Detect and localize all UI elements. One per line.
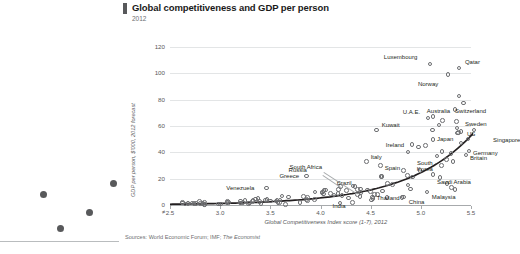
data-label-singapore: Singapore	[493, 137, 520, 144]
data-label-malaysia: Malaysia	[432, 194, 456, 201]
data-point-india	[350, 200, 355, 205]
left-panel-dot	[86, 209, 93, 216]
data-point	[304, 197, 309, 202]
left-panel-dot	[57, 225, 64, 232]
source-publication: The Economist	[223, 234, 260, 240]
scatter-plot: 0204060801001202.53.03.54.04.55.05.5≠GDP…	[119, 0, 473, 254]
data-label-sweden: Sweden	[465, 121, 487, 128]
data-point	[440, 118, 445, 123]
data-point-ireland	[410, 142, 415, 147]
left-panel-divider	[0, 241, 119, 242]
data-point	[283, 202, 288, 207]
data-point	[202, 200, 207, 205]
data-label-qatar: Qatar	[465, 59, 480, 66]
data-point-south-korea	[431, 172, 436, 177]
data-point	[336, 187, 341, 192]
data-label-venezuela: Venezuela	[226, 185, 254, 192]
data-point	[259, 201, 264, 206]
data-point-venezuela	[264, 186, 269, 191]
data-point-kuwait	[374, 128, 379, 133]
data-label-ireland: Ireland	[386, 142, 404, 149]
trend-curve	[119, 0, 473, 254]
data-point	[253, 197, 258, 202]
data-point	[454, 119, 459, 124]
data-label-china: China	[409, 199, 425, 206]
data-label-kuwait: Kuwait	[382, 122, 400, 129]
data-point	[247, 201, 252, 206]
data-point	[410, 175, 415, 180]
source-note: Sources: World Economic Forum; IMF; The …	[125, 234, 260, 240]
data-label-india: India	[333, 203, 346, 210]
data-point	[431, 137, 436, 142]
data-point	[456, 130, 461, 135]
data-point	[439, 163, 444, 168]
data-label-japan: Japan	[437, 136, 453, 143]
data-point	[238, 199, 243, 204]
left-panel	[0, 0, 119, 254]
data-point	[444, 157, 449, 162]
data-label-thailand: Thailand	[377, 195, 400, 202]
data-label-saudi-arabia: Saudi Arabia	[437, 179, 471, 186]
data-label-greece: Greece	[279, 173, 299, 180]
data-label-australia: Australia	[427, 108, 450, 115]
data-point	[346, 196, 351, 201]
data-point	[286, 195, 291, 200]
left-panel-dot	[110, 180, 117, 187]
data-point	[453, 187, 458, 192]
data-point	[312, 197, 317, 202]
data-label-norway: Norway	[418, 81, 438, 88]
data-point	[400, 195, 405, 200]
source-prefix: Sources: World Economic Forum; IMF;	[125, 234, 223, 240]
data-label-south-korea: SouthKorea	[417, 160, 433, 173]
data-point-greece	[304, 174, 309, 179]
data-point	[192, 201, 197, 206]
data-point	[218, 202, 223, 207]
left-panel-dot	[40, 191, 47, 198]
data-point	[322, 188, 327, 193]
data-point	[298, 200, 303, 205]
data-label-italy: Italy	[371, 154, 382, 161]
chart-panel: Global competitiveness and GDP per perso…	[119, 0, 473, 254]
data-label-britain: Britain	[470, 155, 487, 162]
data-point	[390, 182, 395, 187]
data-label-luxembourg: Luxembourg	[384, 54, 417, 61]
data-label-u-a-e-: U.A.E.	[403, 109, 420, 116]
data-point	[440, 149, 445, 154]
data-point-italy	[364, 159, 369, 164]
data-point-australia	[431, 114, 436, 119]
data-label-switzerland: Switzerland	[455, 108, 486, 115]
data-point	[379, 174, 384, 179]
data-point	[180, 200, 185, 205]
data-label-spain: Spain	[385, 165, 400, 172]
data-point	[340, 193, 345, 198]
data-point	[405, 173, 410, 178]
data-point-norway	[446, 72, 451, 77]
data-point	[385, 181, 390, 186]
data-point-spain	[378, 163, 383, 168]
data-label-us: US	[467, 131, 475, 138]
data-point	[408, 187, 413, 192]
data-point	[449, 151, 454, 156]
data-point	[416, 145, 421, 150]
